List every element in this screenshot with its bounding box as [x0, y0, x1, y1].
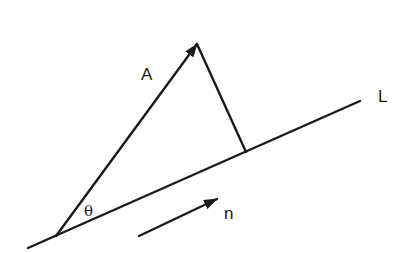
angle-theta-label: θ [84, 204, 93, 219]
line-L [28, 101, 360, 248]
unit-vector-n-label: n [224, 205, 233, 222]
vector-A-arrow [56, 44, 197, 236]
diagram-canvas [0, 0, 411, 253]
vector-A-label: A [141, 66, 152, 83]
line-L-label: L [378, 88, 387, 105]
perpendicular-line [197, 44, 246, 152]
unit-vector-n-arrow [139, 199, 217, 236]
